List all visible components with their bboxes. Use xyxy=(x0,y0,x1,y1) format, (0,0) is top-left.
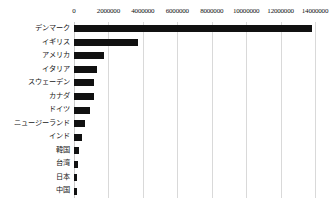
x-tick-label: 0 xyxy=(72,6,75,17)
x-tick-label: 12000000 xyxy=(267,6,293,17)
bar xyxy=(74,188,77,195)
category-label: インド xyxy=(0,130,70,144)
bar-chart: 0200000040000006000000800000010000000120… xyxy=(0,0,334,214)
x-tick-label: 10000000 xyxy=(233,6,259,17)
bar xyxy=(74,120,85,127)
bar xyxy=(74,52,104,59)
x-tick-label: 6000000 xyxy=(166,6,189,17)
bar xyxy=(74,107,90,114)
bar xyxy=(74,161,78,168)
category-label: 日本 xyxy=(0,171,70,185)
bar xyxy=(74,147,79,154)
category-label: スウェーデン xyxy=(0,76,70,90)
x-tick-label: 2000000 xyxy=(97,6,120,17)
x-tick-label: 8000000 xyxy=(200,6,223,17)
category-label: デンマーク xyxy=(0,22,70,36)
category-label: ニュージーランド xyxy=(0,117,70,131)
gridline-14000000 xyxy=(315,22,316,198)
x-tick-label: 14000000 xyxy=(302,6,328,17)
bar xyxy=(74,79,94,86)
bar-series xyxy=(74,22,315,198)
category-label: 台湾 xyxy=(0,157,70,171)
bar xyxy=(74,25,312,32)
bar xyxy=(74,93,94,100)
category-label: ドイツ xyxy=(0,103,70,117)
x-tick-label: 4000000 xyxy=(131,6,154,17)
category-label: アメリカ xyxy=(0,49,70,63)
y-axis-category-labels: デンマークイギリスアメリカイタリアスウェーデンカナダドイツニュージーランドインド… xyxy=(0,22,70,198)
category-label: 中国 xyxy=(0,184,70,198)
category-label: 韓国 xyxy=(0,144,70,158)
x-axis-tick-labels: 0200000040000006000000800000010000000120… xyxy=(74,6,315,18)
bar xyxy=(74,39,138,46)
category-label: カナダ xyxy=(0,90,70,104)
bar xyxy=(74,66,97,73)
bar xyxy=(74,134,82,141)
category-label: イタリア xyxy=(0,63,70,77)
bar xyxy=(74,174,77,181)
category-label: イギリス xyxy=(0,36,70,50)
